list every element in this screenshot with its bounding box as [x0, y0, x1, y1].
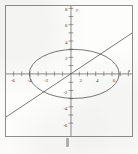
x-tick-label--6: -6 [11, 78, 15, 83]
y-tick-label--4: -4 [63, 106, 67, 111]
y-tick-label-2: 2 [65, 56, 67, 61]
graph-figure: -6 -4 -2 2 4 6 8 6 4 2 -2 -4 -6 y x [0, 0, 138, 154]
y-tick-label--6: -6 [63, 123, 67, 128]
x-tick-label-2: 2 [80, 78, 82, 83]
x-tick-label-4: 4 [96, 78, 98, 83]
x-tick-label--2: -2 [44, 78, 48, 83]
line-curve [6, 33, 132, 117]
y-tick-label-8: 8 [65, 7, 67, 12]
axes [6, 6, 132, 136]
plot-frame: -6 -4 -2 2 4 6 8 6 4 2 -2 -4 -6 y x [5, 5, 133, 137]
x-tick-label--4: -4 [28, 78, 32, 83]
scan-artifact [66, 138, 69, 147]
y-tick-label--2: -2 [63, 90, 67, 95]
y-tick-label-4: 4 [65, 40, 67, 45]
x-tick-label-6: 6 [113, 78, 115, 83]
x-axis-name: x [128, 68, 130, 73]
y-axis-name: y [76, 7, 78, 12]
y-tick-label-6: 6 [65, 23, 67, 28]
plot-canvas [6, 6, 132, 136]
